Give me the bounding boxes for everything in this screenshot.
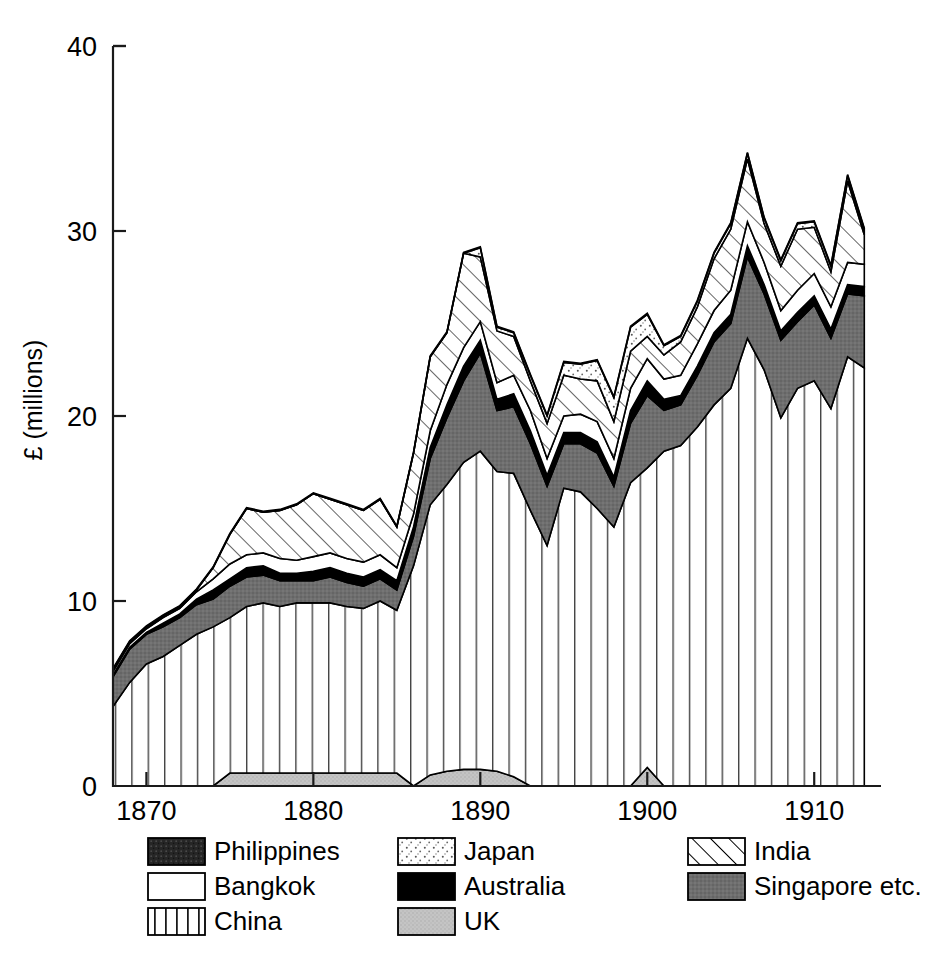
chart-legend: PhilippinesBangkokChinaJapanAustraliaUKI… bbox=[148, 836, 922, 936]
legend-swatch-china bbox=[148, 908, 205, 935]
y-tick-labels: 010203040 bbox=[67, 32, 97, 802]
y-tick-label-0: 0 bbox=[82, 772, 97, 802]
y-tick-label-10: 10 bbox=[67, 587, 97, 617]
legend-label-philippines: Philippines bbox=[214, 836, 340, 866]
legend-label-china: China bbox=[214, 906, 282, 936]
legend-swatch-australia bbox=[398, 873, 455, 900]
plot-area-bands bbox=[113, 152, 864, 786]
legend-swatch-bangkok bbox=[148, 873, 205, 900]
y-tick-label-20: 20 bbox=[67, 402, 97, 432]
y-tick-label-30: 30 bbox=[67, 217, 97, 247]
legend-label-singapore-etc: Singapore etc. bbox=[754, 871, 922, 901]
x-tick-label-1900: 1900 bbox=[617, 796, 677, 826]
legend-swatch-japan bbox=[398, 838, 455, 865]
legend-label-india: India bbox=[754, 836, 811, 866]
legend-label-japan: Japan bbox=[464, 836, 535, 866]
x-tick-label-1890: 1890 bbox=[450, 796, 510, 826]
x-tick-labels: 18701880189019001910 bbox=[116, 796, 844, 826]
stacked-area-chart: 010203040 18701880189019001910 £ (millio… bbox=[0, 0, 927, 968]
y-axis-title: £ (millions) bbox=[19, 340, 47, 461]
x-tick-label-1910: 1910 bbox=[784, 796, 844, 826]
legend-label-bangkok: Bangkok bbox=[214, 871, 316, 901]
legend-swatch-philippines bbox=[148, 838, 205, 865]
legend-label-australia: Australia bbox=[464, 871, 566, 901]
x-tick-label-1870: 1870 bbox=[116, 796, 176, 826]
x-tick-label-1880: 1880 bbox=[283, 796, 343, 826]
y-tick-label-40: 40 bbox=[67, 32, 97, 62]
legend-swatch-singapore-etc bbox=[688, 873, 745, 900]
legend-swatch-india bbox=[688, 838, 745, 865]
chart-container: 010203040 18701880189019001910 £ (millio… bbox=[0, 0, 927, 968]
legend-swatch-uk bbox=[398, 908, 455, 935]
legend-label-uk: UK bbox=[464, 906, 501, 936]
